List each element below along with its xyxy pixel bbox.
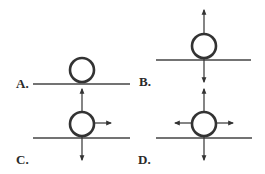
panel-d[interactable]: D. [138, 89, 252, 167]
option-label-c: C. [16, 152, 29, 167]
panel-b[interactable]: B. [139, 10, 251, 89]
option-label-b: B. [139, 74, 151, 89]
panel-a[interactable]: A. [16, 58, 130, 91]
panel-c[interactable]: C. [16, 89, 130, 167]
option-label-a: A. [16, 76, 29, 91]
ball [192, 34, 216, 58]
ball [192, 112, 216, 136]
option-label-d: D. [138, 152, 151, 167]
ball [70, 112, 94, 136]
ball [70, 58, 94, 82]
free-body-diagrams: A. B. C. D. [0, 0, 265, 174]
